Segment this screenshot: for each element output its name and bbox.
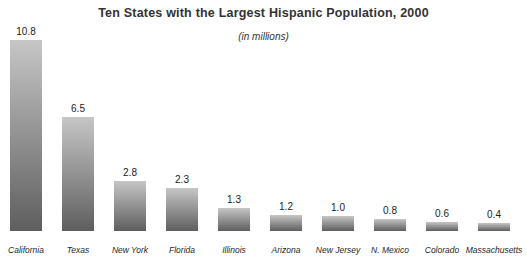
bar <box>10 40 42 231</box>
bar <box>114 181 146 231</box>
bar-column: 6.5Texas <box>52 0 104 269</box>
bar-column: 0.8N. Mexico <box>364 0 416 269</box>
bar-column: 0.6Colorado <box>416 0 468 269</box>
bar-value-label: 0.6 <box>435 209 449 219</box>
bar-value-label: 1.0 <box>331 203 345 213</box>
bar <box>218 208 250 231</box>
bar-value-label: 2.3 <box>175 175 189 185</box>
bar-column: 2.8New York <box>104 0 156 269</box>
bar-column: 2.3Florida <box>156 0 208 269</box>
bar <box>322 216 354 231</box>
bar-category-label: California <box>8 231 44 269</box>
bar-value-label: 6.5 <box>71 104 85 114</box>
bar-category-label: Colorado <box>425 231 460 269</box>
bar-column: 0.4Massachusetts <box>468 0 520 269</box>
bar-category-label: Florida <box>169 231 195 269</box>
bar-category-label: Arizona <box>272 231 301 269</box>
bar-category-label: Texas <box>67 231 89 269</box>
bar-column: 10.8California <box>0 0 52 269</box>
bar-value-label: 0.4 <box>487 210 501 220</box>
bar-value-label: 0.8 <box>383 206 397 216</box>
bar-chart: Ten States with the Largest Hispanic Pop… <box>0 0 527 269</box>
bar-value-label: 1.2 <box>279 202 293 212</box>
bar-category-label: Massachusetts <box>466 231 523 269</box>
bar-column: 1.3Illinois <box>208 0 260 269</box>
bar-category-label: Illinois <box>222 231 246 269</box>
bar-category-label: N. Mexico <box>371 231 409 269</box>
plot-area: 10.8California6.5Texas2.8New York2.3Flor… <box>0 0 527 269</box>
bar <box>166 188 198 231</box>
bar <box>62 117 94 231</box>
bar <box>270 215 302 231</box>
bar <box>374 219 406 231</box>
bar-value-label: 2.8 <box>123 168 137 178</box>
bar-value-label: 1.3 <box>227 195 241 205</box>
bar-value-label: 10.8 <box>16 27 35 37</box>
bar <box>478 223 510 231</box>
bar-category-label: New York <box>112 231 148 269</box>
bar-column: 1.2Arizona <box>260 0 312 269</box>
bar-column: 1.0New Jersey <box>312 0 364 269</box>
bar <box>426 222 458 231</box>
bar-category-label: New Jersey <box>316 231 360 269</box>
